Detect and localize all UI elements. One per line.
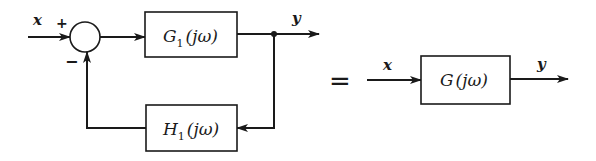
minus-sign: −	[65, 52, 78, 71]
equiv-output-label-y: y	[536, 55, 547, 73]
input-label-x: x	[32, 11, 43, 29]
feedback-left-path	[87, 52, 146, 128]
summing-junction	[70, 22, 100, 52]
equals-sign: =	[329, 66, 351, 96]
block-diagram: x + − G1(jω) y H1(jω) = x G(jω)	[0, 0, 596, 161]
output-label-y: y	[291, 9, 302, 27]
diagram-svg: x + − G1(jω) y H1(jω) = x G(jω)	[0, 0, 596, 161]
equivalent-block-label: G(jω)	[440, 70, 488, 90]
plus-sign: +	[56, 15, 68, 31]
feedback-right-path	[237, 34, 274, 128]
equiv-input-label-x: x	[382, 56, 393, 74]
